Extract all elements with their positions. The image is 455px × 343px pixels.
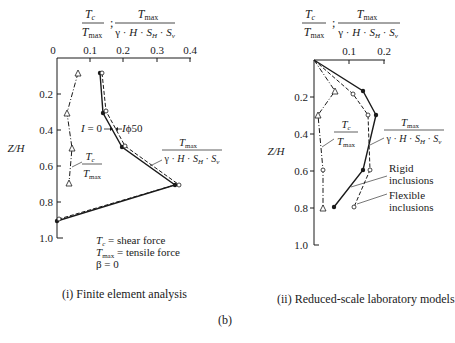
svg-text:0.2: 0.2 [116,44,130,56]
svg-text:I = 0: I = 0 [80,122,102,134]
right-x-axis-title: Tc Tmax ; Tmax γ · H · SH · Sv [302,7,400,40]
svg-text:Z/H: Z/H [7,142,25,154]
right-annotation-flexible: Flexible inclusions [357,189,434,213]
svg-text:Tmax: Tmax [83,167,102,181]
right-annotation-tc-label: Tc Tmax [322,118,358,149]
right-annotation-tmax-label: Tmax γ · H · SH · Sv [370,116,444,146]
svg-text:Tmax: Tmax [357,7,377,22]
svg-text:Tmax: Tmax [401,116,420,130]
svg-text:;: ; [332,16,335,30]
svg-text:Iϕ50: Iϕ50 [121,122,143,134]
svg-text:γ · H · SH · Sv: γ · H · SH · Sv [114,26,175,40]
svg-text:;: ; [110,16,113,30]
svg-text:1.0: 1.0 [39,232,53,244]
svg-text:Tmax: Tmax [304,25,324,40]
left-series-tc [64,70,81,186]
right-series-tc [314,60,338,211]
right-y-axis: 0.2 0.4 0.6 0.8 1.0 Z/H [267,60,319,251]
svg-text:0.4: 0.4 [183,44,197,56]
svg-text:β = 0: β = 0 [96,258,119,270]
svg-text:0.1: 0.1 [342,45,356,57]
svg-text:1.0: 1.0 [294,239,308,251]
left-annotation-tmax-label: Tmax γ · H · SH · Sv [150,136,222,166]
svg-text:Tmax: Tmax [337,135,356,149]
svg-text:inclusions: inclusions [389,201,434,213]
svg-text:Tc: Tc [85,150,95,164]
svg-text:0.4: 0.4 [294,128,308,140]
svg-text:Flexible: Flexible [389,189,425,201]
svg-text:Tmax: Tmax [82,25,102,40]
svg-text:0.6: 0.6 [294,165,308,177]
svg-text:Tc: Tc [341,118,351,132]
svg-text:0.4: 0.4 [39,124,53,136]
svg-text:0.2: 0.2 [294,91,308,103]
left-legend-notes: Tc = shear force Tmax = tensile force β … [96,234,180,270]
left-chart: Tc Tmax ; Tmax γ · H · SH · Sv 0 0.1 0.2… [7,7,222,270]
figure-label: (b) [218,313,232,328]
left-x-axis: 0 0.1 0.2 0.3 0.4 [50,44,197,62]
svg-text:Z/H: Z/H [267,145,285,157]
right-chart: Tc Tmax ; Tmax γ · H · SH · Sv 0.1 0.2 0… [267,7,444,251]
svg-text:Tc: Tc [85,7,96,22]
svg-text:Tc: Tc [305,7,316,22]
svg-text:0.2: 0.2 [377,45,391,57]
svg-text:γ · H · SH · Sv: γ · H · SH · Sv [337,26,398,40]
left-x-axis-title: Tc Tmax ; Tmax γ · H · SH · Sv [82,7,176,40]
svg-text:0.1: 0.1 [83,44,97,56]
svg-text:0.8: 0.8 [294,202,308,214]
left-annotation-i0: I = 0 Iϕ50 [80,122,143,134]
left-series-iphi50 [57,71,181,221]
svg-text:γ · H · SH · Sv: γ · H · SH · Sv [386,133,443,146]
left-annotation-tc-label: Tc Tmax [72,150,102,181]
left-y-axis: 0.2 0.4 0.6 0.8 1.0 Z/H [7,58,63,244]
svg-text:inclusions: inclusions [389,174,434,186]
svg-text:γ · H · SH · Sv: γ · H · SH · Sv [164,153,221,166]
svg-text:Tmax: Tmax [179,136,198,150]
svg-text:0.3: 0.3 [150,44,164,56]
svg-text:0: 0 [50,44,56,56]
svg-text:0.6: 0.6 [39,160,53,172]
svg-text:Rigid: Rigid [389,162,414,174]
right-panel-caption: (ii) Reduced-scale laboratory models [277,292,455,307]
right-x-axis: 0.1 0.2 [314,45,391,64]
left-panel-caption: (i) Finite element analysis [62,287,187,302]
svg-text:0.8: 0.8 [39,196,53,208]
svg-text:0.2: 0.2 [39,88,53,100]
svg-text:Tmax: Tmax [138,7,158,22]
